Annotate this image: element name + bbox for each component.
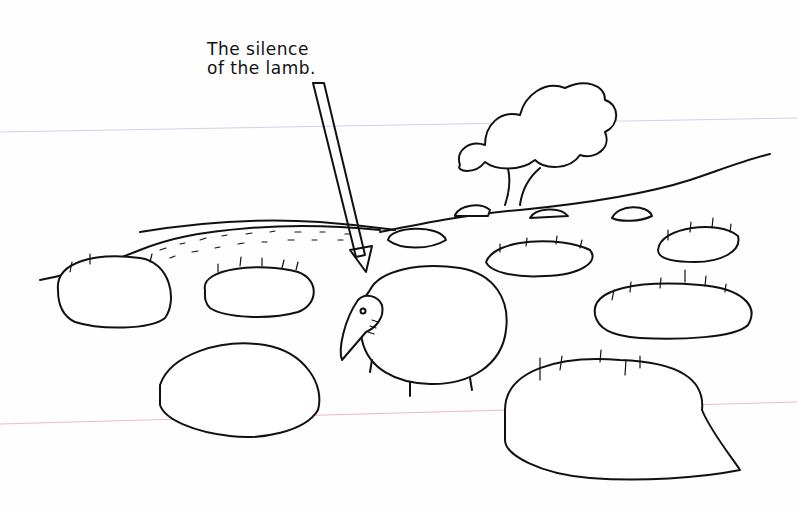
hill-line: [380, 154, 770, 232]
tree: [459, 83, 616, 205]
paper-rule-line: [0, 118, 797, 132]
sheep-distant: [388, 205, 652, 247]
pointer-arrow: [313, 83, 372, 272]
standing-lamb: [341, 266, 507, 396]
caption-line-1: The silence: [207, 40, 316, 59]
cartoon-canvas: The silence of the lamb.: [0, 0, 797, 510]
caption-line-2: of the lamb.: [207, 59, 316, 78]
caption: The silence of the lamb.: [207, 40, 316, 78]
cartoon-drawing: [0, 0, 797, 510]
